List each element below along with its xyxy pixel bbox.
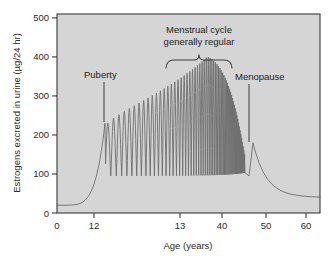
x-tick-label: 0	[54, 220, 59, 231]
puberty-label: Puberty	[84, 69, 117, 80]
y-tick-label: 300	[33, 90, 49, 101]
y-tick-label: 400	[33, 51, 49, 62]
y-tick-label: 200	[33, 129, 49, 140]
menopause-label: Menopause	[235, 71, 285, 82]
chart-canvas: 0100200300400500 01213405060 Estrogens e…	[0, 0, 335, 263]
x-tick-label: 13	[175, 220, 186, 231]
x-axis-title: Age (years)	[163, 240, 212, 251]
y-tick-label: 0	[44, 208, 49, 219]
estrogen-lifespan-chart: 0100200300400500 01213405060 Estrogens e…	[0, 0, 335, 263]
x-tick-label: 50	[261, 220, 272, 231]
x-tick-label: 60	[301, 220, 312, 231]
y-axis-title: Estrogens excreted in urine (µg/24 hr)	[11, 33, 22, 193]
y-tick-label: 100	[33, 168, 49, 179]
y-tick-label: 500	[33, 12, 49, 23]
x-tick-label: 12	[89, 220, 100, 231]
menstrual-cycle-label-line2: generally regular	[164, 36, 235, 47]
x-tick-label: 40	[217, 220, 228, 231]
menstrual-cycle-label-line1: Menstrual cycle	[166, 24, 232, 35]
